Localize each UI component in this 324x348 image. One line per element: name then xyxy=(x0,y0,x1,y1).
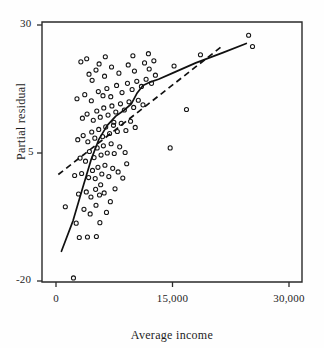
y-tick-label-minus20: -20 xyxy=(16,273,31,285)
regression-dashed-line xyxy=(58,45,223,174)
x-tick-label-15000: 15,000 xyxy=(157,292,188,304)
figure-container: 30 5 -20 0 15,000 30,000 Partial residua… xyxy=(0,0,324,348)
x-axis-title: Average income xyxy=(131,328,213,343)
plot-frame xyxy=(42,22,302,282)
y-tick-label-30: 30 xyxy=(20,17,31,29)
y-axis-title: Partial residual xyxy=(14,82,29,159)
axis-ticks xyxy=(37,25,289,287)
x-tick-label-0: 0 xyxy=(53,292,59,304)
x-tick-label-30000: 30,000 xyxy=(273,292,304,304)
